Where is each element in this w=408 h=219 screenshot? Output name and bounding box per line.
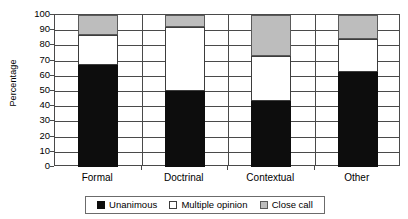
x-tick-mark (227, 166, 228, 170)
x-tick-mark (314, 166, 315, 170)
y-tick-label: 90 (24, 24, 50, 34)
y-tick-label: 80 (24, 40, 50, 50)
bar-segment-doctrinal-close[interactable] (165, 15, 205, 27)
bar-group-other[interactable] (338, 15, 378, 165)
bar-segment-contextual-close[interactable] (251, 15, 291, 56)
bar-segment-doctrinal-unanimous[interactable] (165, 91, 205, 167)
x-tick-label-doctrinal: Doctrinal (164, 172, 203, 183)
bar-group-doctrinal[interactable] (165, 15, 205, 165)
y-axis-title: Percentage (8, 38, 18, 128)
bar-segment-contextual-multiple[interactable] (251, 56, 291, 101)
legend-item-multiple-opinion[interactable]: Multiple opinion (169, 200, 247, 210)
x-tick-label-other: Other (344, 172, 369, 183)
legend-item-close-call[interactable]: Close call (260, 200, 313, 210)
legend-item-unanimous[interactable]: Unanimous (97, 200, 157, 210)
x-tick-label-contextual: Contextual (246, 172, 294, 183)
legend-label: Unanimous (109, 200, 157, 210)
bar-segment-other-multiple[interactable] (338, 39, 378, 72)
category-separator (315, 15, 316, 165)
y-tick-label: 100 (24, 9, 50, 19)
y-tick-label: 0 (24, 161, 50, 171)
black-swatch-icon (97, 201, 105, 209)
x-tick-mark (141, 166, 142, 170)
chart-legend: UnanimousMultiple opinionClose call (85, 196, 325, 214)
bar-segment-formal-unanimous[interactable] (78, 65, 118, 167)
bar-segment-contextual-unanimous[interactable] (251, 101, 291, 167)
plot-area (54, 14, 400, 166)
bar-segment-other-close[interactable] (338, 15, 378, 39)
x-axis: FormalDoctrinalContextualOther (54, 166, 400, 188)
gray-swatch-icon (260, 201, 268, 209)
bar-segment-formal-multiple[interactable] (78, 35, 118, 65)
bar-segment-doctrinal-multiple[interactable] (165, 27, 205, 91)
y-tick-label: 30 (24, 116, 50, 126)
bar-group-contextual[interactable] (251, 15, 291, 165)
y-tick-label: 60 (24, 70, 50, 80)
category-separator (142, 15, 143, 165)
bar-group-formal[interactable] (78, 15, 118, 165)
y-tick-label: 10 (24, 146, 50, 156)
y-tick-label: 40 (24, 100, 50, 110)
category-separator (228, 15, 229, 165)
y-tick-label: 20 (24, 131, 50, 141)
bar-segment-other-unanimous[interactable] (338, 72, 378, 167)
legend-label: Multiple opinion (181, 200, 247, 210)
x-tick-label-formal: Formal (82, 172, 113, 183)
stacked-bar-chart-figure: Percentage 0102030405060708090100 Formal… (0, 0, 408, 219)
y-tick-label: 70 (24, 55, 50, 65)
white-swatch-icon (169, 201, 177, 209)
y-axis-tick-labels: 0102030405060708090100 (20, 14, 50, 166)
bar-segment-formal-close[interactable] (78, 15, 118, 35)
y-tick-label: 50 (24, 85, 50, 95)
legend-label: Close call (272, 200, 313, 210)
